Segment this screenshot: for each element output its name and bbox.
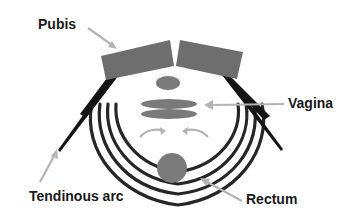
rectum-pointer [207,182,242,201]
label-tendinous-arc: Tendinous arc [29,189,124,203]
pelvic-floor-diagram: Pubis Vagina Tendinous arc Rectum [0,0,356,223]
urethra [156,76,180,90]
curved-arrow-right [184,130,208,137]
rectum-shape [157,153,187,183]
label-vagina: Vagina [288,96,333,110]
pubis-bones [101,40,243,80]
pubis-pointer [88,28,112,45]
vagina-shape [141,99,197,119]
curved-arrow-left [140,130,164,137]
pubis-right [176,40,243,79]
tendinous-arc-pointer [40,156,54,182]
label-rectum: Rectum [246,192,297,206]
vagina-pointer [212,104,284,105]
label-pubis: Pubis [38,17,76,31]
inward-arrows [140,127,208,137]
